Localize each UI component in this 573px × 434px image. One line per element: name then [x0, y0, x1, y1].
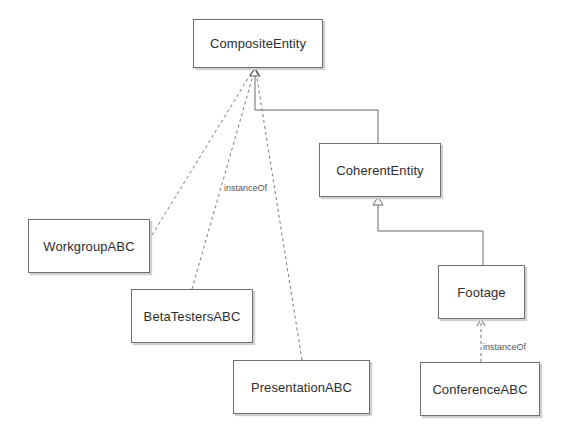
dependency-conference-to-footage	[477, 319, 485, 362]
class-name: WorkgroupABC	[43, 239, 134, 254]
edge-label-instanceof-conference: instanceOf	[483, 342, 526, 352]
generalization-coherent-to-composite	[255, 76, 378, 143]
class-footage[interactable]: Footage	[438, 265, 525, 319]
edge-label-instanceof-betatesters: instanceOf	[224, 183, 267, 193]
class-name: CoherentEntity	[336, 163, 423, 178]
class-workgroup-abc[interactable]: WorkgroupABC	[28, 219, 150, 273]
class-presentation-abc[interactable]: PresentationABC	[233, 360, 370, 414]
class-betatesters-abc[interactable]: BetaTestersABC	[131, 289, 253, 343]
class-name: ConferenceABC	[432, 382, 527, 397]
generalization-footage-to-coherent	[373, 197, 483, 265]
class-conference-abc[interactable]: ConferenceABC	[420, 362, 540, 416]
diagram-canvas: CompositeEntity CoherentEntity Workgroup…	[0, 0, 573, 434]
class-name: CompositeEntity	[210, 36, 306, 51]
dependency-betatesters-to-composite	[192, 72, 254, 289]
dependency-workgroup-to-composite	[149, 72, 252, 240]
class-name: BetaTestersABC	[144, 309, 241, 324]
class-composite-entity[interactable]: CompositeEntity	[193, 19, 323, 68]
dependency-presentation-to-composite	[256, 72, 302, 360]
class-name: PresentationABC	[251, 380, 352, 395]
class-name: Footage	[457, 285, 505, 300]
arrowhead-composite-icon	[250, 68, 260, 76]
class-coherent-entity[interactable]: CoherentEntity	[319, 143, 441, 197]
